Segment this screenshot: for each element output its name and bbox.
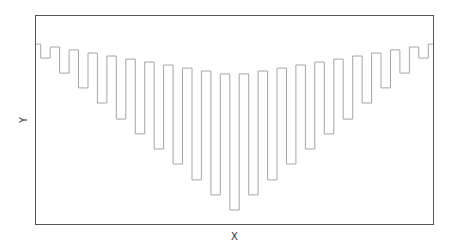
- step-chart: X Y: [0, 0, 455, 250]
- plot-background: [36, 16, 434, 225]
- x-axis-label: X: [231, 231, 238, 242]
- y-axis-label: Y: [18, 116, 29, 124]
